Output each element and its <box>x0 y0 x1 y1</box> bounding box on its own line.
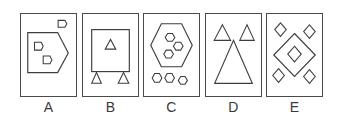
large-hexagon <box>151 24 192 67</box>
panel-label-c: C <box>143 99 200 115</box>
small-triangle-outside-1 <box>214 25 230 41</box>
panel-label-e: E <box>266 99 323 115</box>
large-triangle <box>215 40 253 83</box>
small-hexagon-inside-3 <box>164 50 174 58</box>
small-triangle-outside-2 <box>240 25 254 41</box>
panel-a[interactable] <box>20 13 77 97</box>
small-hexagon-inside-1 <box>165 34 175 42</box>
panel-e[interactable] <box>266 13 323 97</box>
panel-e-shapes <box>267 14 322 96</box>
figure-canvas: A B C D E <box>0 0 337 130</box>
panel-label-a: A <box>20 99 77 115</box>
large-square <box>92 30 130 72</box>
small-hexagon-outside-3 <box>178 76 187 84</box>
small-pentagon-d-inside-1 <box>35 42 44 50</box>
small-diamond-outside-3 <box>273 69 285 83</box>
small-diamond-outside-4 <box>304 70 316 84</box>
small-diamond-outside-1 <box>275 23 287 37</box>
small-pentagon-d-inside-2 <box>43 56 52 64</box>
small-diamond-outside-2 <box>304 25 316 39</box>
small-hexagon-inside-2 <box>173 42 183 50</box>
panel-d-shapes <box>206 14 261 96</box>
panel-label-b: B <box>82 99 139 115</box>
panel-c-shapes <box>144 14 199 96</box>
panel-label-d: D <box>205 99 262 115</box>
small-pentagon-d-outside-1 <box>58 20 67 27</box>
small-hexagon-outside-2 <box>165 74 175 83</box>
small-triangle-inside-1 <box>105 39 116 49</box>
panel-label-row: A B C D E <box>0 99 337 127</box>
panel-c[interactable] <box>143 13 200 97</box>
small-diamond-inside-1 <box>288 46 302 62</box>
small-hexagon-outside-1 <box>152 74 162 83</box>
large-pentagon <box>28 33 69 73</box>
panel-d[interactable] <box>205 13 262 97</box>
panel-b[interactable] <box>82 13 139 97</box>
small-triangle-outside-1 <box>92 73 102 84</box>
panel-a-shapes <box>21 14 76 96</box>
small-triangle-outside-2 <box>118 73 129 84</box>
panel-b-shapes <box>83 14 138 96</box>
